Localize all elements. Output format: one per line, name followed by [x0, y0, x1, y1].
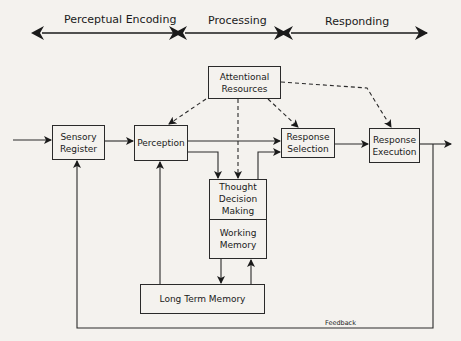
long-term-memory-label: Long Term Memory: [160, 293, 246, 305]
response-selection-box: Response Selection: [281, 128, 335, 158]
response-selection-label: Response Selection: [282, 131, 334, 155]
thought-decision-making-section: Thought Decision Making: [210, 180, 266, 220]
sensory-register-box: Sensory Register: [52, 125, 105, 160]
working-memory-section: Working Memory: [210, 220, 266, 259]
sensory-register-label: Sensory Register: [53, 131, 104, 155]
response-execution-label: Response Execution: [370, 134, 419, 158]
working-memory-label: Working Memory: [216, 227, 260, 251]
perception-box: Perception: [134, 125, 188, 161]
stage-responding: Responding: [325, 15, 389, 28]
stage-perceptual-encoding: Perceptual Encoding: [64, 13, 176, 26]
thought-working-memory-box: Thought Decision Making Working Memory: [209, 179, 267, 259]
feedback-label: Feedback: [325, 319, 356, 327]
attentional-resources-box: Attentional Resources: [208, 66, 281, 99]
attentional-resources-label: Attentional Resources: [209, 71, 280, 95]
perception-label: Perception: [137, 137, 185, 149]
long-term-memory-box: Long Term Memory: [140, 284, 265, 314]
stage-processing: Processing: [208, 14, 267, 27]
response-execution-box: Response Execution: [369, 128, 420, 163]
thought-decision-making-label: Thought Decision Making: [218, 181, 258, 217]
